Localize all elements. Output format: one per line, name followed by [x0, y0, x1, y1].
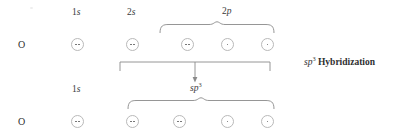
sp3-hybridization-diagram: 1s 2s 2p O 1s	[0, 0, 420, 139]
orbital-2s-top	[126, 38, 139, 51]
orbital-sp3-3	[221, 115, 234, 128]
electron-dot	[130, 121, 132, 123]
electron-dot	[227, 121, 229, 123]
orbital-label-2p-top: 2p	[222, 7, 232, 17]
orbital-2p-2	[221, 38, 234, 51]
electron-dot	[75, 121, 77, 123]
electron-dot	[78, 121, 80, 123]
orbital-sp3-4	[261, 115, 274, 128]
electron-dot	[188, 44, 190, 46]
orbital-1s-bottom	[71, 115, 84, 128]
electron-dot	[177, 121, 179, 123]
electron-dot	[75, 44, 77, 46]
orbital-sp3-2	[173, 115, 186, 128]
electron-dot	[130, 44, 132, 46]
hybridization-caption: sp3 Hybridization	[304, 58, 375, 68]
orbital-label-2s-top: 2s	[127, 8, 135, 18]
orbital-2p-1	[181, 38, 194, 51]
orbital-sp3-1	[126, 115, 139, 128]
electron-dot	[78, 44, 80, 46]
electron-dot	[267, 121, 269, 123]
electron-dot	[133, 121, 135, 123]
hybridization-bracket	[119, 61, 271, 71]
orbital-2p-3	[261, 38, 274, 51]
brace-sp3	[127, 97, 275, 109]
orbital-label-sp3-bottom: sp3	[190, 84, 202, 94]
atom-label-O-top: O	[18, 40, 25, 50]
scan-speck	[30, 7, 33, 9]
electron-dot	[185, 44, 187, 46]
electron-dot	[133, 44, 135, 46]
brace-2p	[159, 21, 275, 33]
electron-dot	[227, 44, 229, 46]
orbital-label-1s-bottom: 1s	[72, 85, 80, 95]
orbital-1s-top	[71, 38, 84, 51]
electron-dot	[267, 44, 269, 46]
atom-label-O-bottom: O	[18, 117, 25, 127]
electron-dot	[180, 121, 182, 123]
orbital-label-1s-top: 1s	[72, 8, 80, 18]
